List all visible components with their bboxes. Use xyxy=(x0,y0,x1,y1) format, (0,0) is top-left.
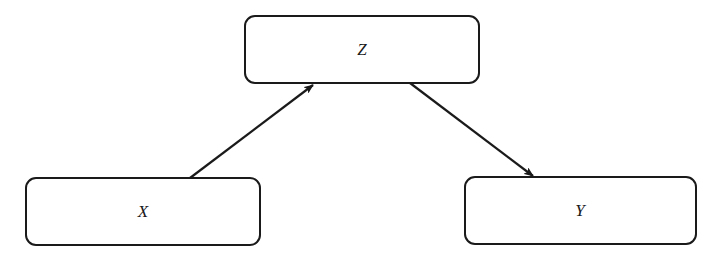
causal-diagram: Z X Y xyxy=(0,0,722,265)
edge-x-to-z-arrow xyxy=(190,85,313,178)
node-z: Z xyxy=(245,16,479,83)
node-y-label: Y xyxy=(575,201,586,220)
node-z-label: Z xyxy=(357,40,367,59)
node-x-label: X xyxy=(137,202,149,221)
edge-z-to-y-arrow xyxy=(410,83,533,176)
node-x: X xyxy=(26,178,260,245)
node-y: Y xyxy=(465,177,696,244)
